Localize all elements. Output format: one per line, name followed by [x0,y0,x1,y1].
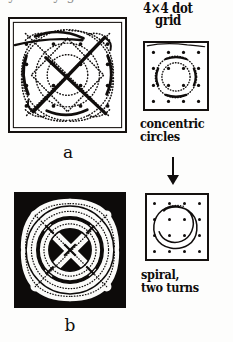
figure-a-letter: a [53,142,83,162]
cut-off-text-line: cy l ar y g [0,0,233,13]
heavy-bar-strokes [15,32,111,115]
dot-grid-panel [143,41,209,111]
figure-b-artwork [16,194,124,306]
spiral-panel [145,193,209,261]
annotation-concentric-circles: concentric circles [140,117,204,144]
annotation-spiral-line2: two turns [141,281,199,295]
dot-grid-artwork [145,43,207,109]
annotation-concentric-circles-line2: circles [140,130,204,144]
arrow-down-glyph [162,156,184,186]
figure-b-letter: b [55,315,85,335]
dot-grid-16 [153,202,201,253]
spiral-two-turns [154,206,197,248]
figure-a-artwork [10,19,125,131]
hand-drawn-top-edge [147,44,205,47]
arrow-down-icon [162,156,184,186]
annotation-spiral: spiral, two turns [141,268,199,295]
spiral-artwork [147,195,207,259]
concentric-circle-guides [155,56,196,97]
cut-off-text: cy l ar y g [0,0,76,3]
figure-page: cy l ar y g [0,0,233,342]
figure-a-panel [8,17,127,133]
figure-b-panel [14,192,126,308]
dot-grid-16 [152,51,200,103]
annotation-dot-grid: 4×4 dot grid [143,1,193,28]
